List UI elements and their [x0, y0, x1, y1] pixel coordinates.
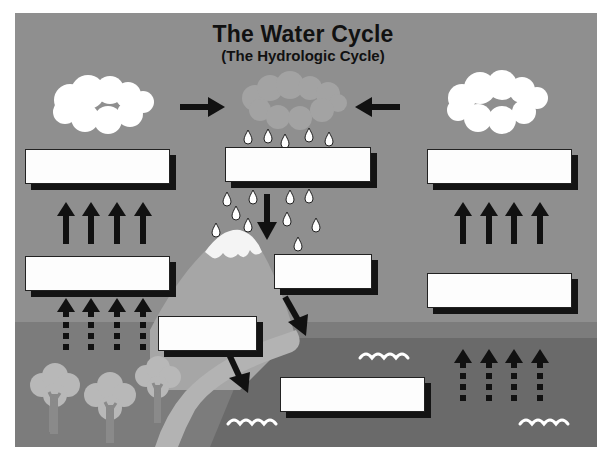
label-input-center-middle[interactable] [275, 255, 371, 288]
label-input-left-middle[interactable] [26, 257, 169, 290]
label-input-right-upper[interactable] [428, 150, 571, 183]
label-input-center-top[interactable] [226, 148, 370, 181]
label-input-sea[interactable] [281, 378, 424, 411]
label-box-right-middle[interactable] [427, 273, 572, 308]
label-box-left-middle[interactable] [25, 256, 170, 291]
page-title: The Water Cycle [0, 21, 609, 48]
label-box-mountain-lower[interactable] [158, 316, 257, 351]
label-input-right-middle[interactable] [428, 274, 571, 307]
label-box-sea[interactable] [280, 377, 425, 412]
label-box-center-middle[interactable] [274, 254, 372, 289]
label-box-center-top[interactable] [225, 147, 371, 182]
label-box-right-upper[interactable] [427, 149, 572, 184]
page-subtitle: (The Hydrologic Cycle) [0, 47, 609, 64]
label-input-mountain-lower[interactable] [159, 317, 256, 350]
label-input-left-upper[interactable] [26, 150, 169, 183]
label-box-left-upper[interactable] [25, 149, 170, 184]
